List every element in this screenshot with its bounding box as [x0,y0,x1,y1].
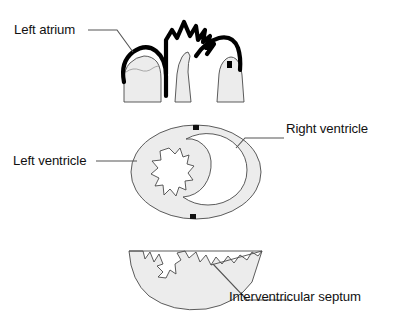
left-atrium-label: Left atrium [14,22,75,37]
crown-zigzag-outline [166,22,214,74]
superior-marker-notch [193,125,199,130]
left-atrium-leader-line [88,30,133,52]
heart-anatomy-figure: Left atrium Left ventricle Right ventric… [0,0,393,321]
left-muscle-band-shape [124,56,161,102]
right-band-marker-dot [227,61,232,68]
interventricular-septum-label: Interventricular septum [229,289,361,304]
right-ventricle-label: Right ventricle [286,121,368,136]
panel-apical-section: Interventricular septum [129,251,361,310]
panel-longitudinal-section: Left atrium [14,22,244,102]
panel-transverse-section: Left ventricle Right ventricle [13,121,368,219]
middle-muscle-band-shape [175,52,191,102]
diagram-canvas: Left atrium Left ventricle Right ventric… [0,0,393,321]
inferior-marker-notch [190,214,196,219]
left-ventricle-label: Left ventricle [13,153,86,168]
